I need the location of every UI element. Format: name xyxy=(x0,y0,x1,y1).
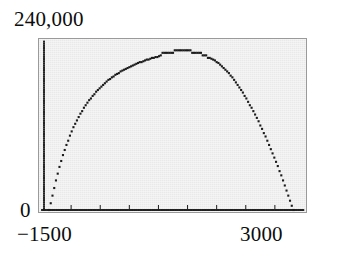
chart-figure: 240,000 0 −1500 3000 xyxy=(0,0,341,257)
x-axis-min-label: −1500 xyxy=(17,224,72,245)
x-axis-ticks xyxy=(71,205,275,209)
curve-data-points xyxy=(48,49,295,211)
data-plot xyxy=(39,39,306,212)
left-edge-dotted-axis xyxy=(43,41,45,211)
plot-area xyxy=(38,38,307,213)
y-axis-max-label: 240,000 xyxy=(14,9,84,30)
y-axis-min-label: 0 xyxy=(20,200,31,221)
x-axis-max-label: 3000 xyxy=(240,224,283,245)
baseline-dotted-axis xyxy=(41,209,304,211)
